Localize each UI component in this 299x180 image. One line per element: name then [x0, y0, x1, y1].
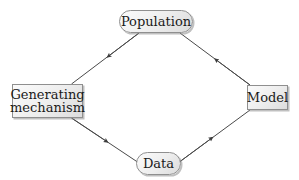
node-generating-mechanism-label: Generating mechanism	[10, 88, 85, 115]
node-model[interactable]: Model	[247, 85, 288, 110]
node-generating-mechanism[interactable]: Generating mechanism	[12, 84, 83, 118]
node-model-label: Model	[247, 91, 288, 104]
diagram-canvas: Population Generating mechanism Model Da…	[0, 0, 299, 180]
edge-model-to-population	[180, 33, 250, 85]
node-population[interactable]: Population	[119, 10, 193, 33]
node-data[interactable]: Data	[136, 152, 181, 175]
edge-data-to-model	[178, 110, 250, 163]
node-population-label: Population	[121, 15, 191, 28]
node-data-label: Data	[143, 157, 174, 170]
edge-population-to-generating	[72, 33, 140, 84]
edge-generating-to-data	[72, 118, 140, 163]
